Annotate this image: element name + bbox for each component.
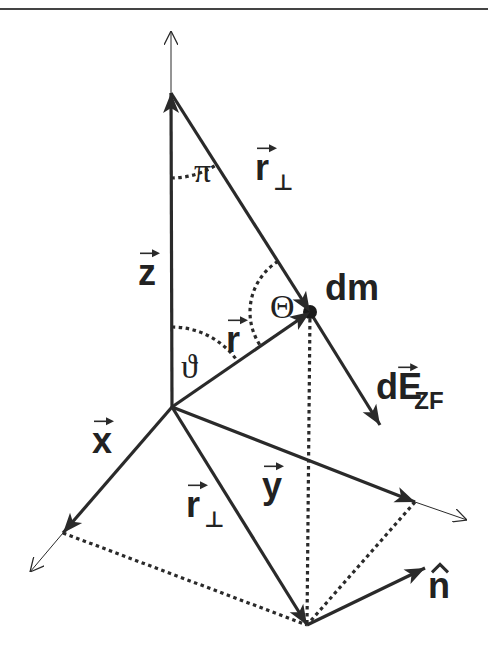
arrowhead-icon bbox=[290, 604, 307, 625]
svg-text:z: z bbox=[138, 252, 156, 293]
subscript: ⊥ bbox=[204, 507, 224, 532]
r-perp-top-label: r⊥ bbox=[255, 144, 293, 195]
pi-angle-label: π bbox=[194, 152, 211, 189]
theta-angle-label: Θ bbox=[270, 288, 295, 325]
dE-ZF-vector bbox=[310, 312, 380, 425]
vectors bbox=[63, 93, 425, 625]
z-vector-label: z bbox=[138, 249, 160, 293]
n-hat-vector bbox=[307, 568, 425, 625]
y-vector-label: y bbox=[262, 462, 284, 506]
dE-ZF-label: dEZF bbox=[376, 363, 444, 414]
svg-text:r: r bbox=[186, 484, 200, 525]
svg-text:y: y bbox=[262, 465, 282, 506]
subscript: ⊥ bbox=[273, 170, 293, 195]
y-axis-line bbox=[415, 502, 467, 520]
r-perp-top-vector bbox=[171, 93, 310, 312]
subscript: ZF bbox=[414, 387, 443, 414]
r-perp-bottom-label: r⊥ bbox=[186, 481, 224, 532]
svg-text:r: r bbox=[226, 319, 240, 360]
svg-text:r: r bbox=[255, 147, 269, 188]
labels: zπr⊥ΘdmrϑdEZFxyr⊥n bbox=[92, 144, 450, 606]
x-axis-line bbox=[30, 533, 63, 572]
diagram-stage: zπr⊥ΘdmrϑdEZFxyr⊥n bbox=[0, 0, 488, 648]
x-vector bbox=[63, 407, 172, 533]
svg-text:Θ: Θ bbox=[270, 288, 295, 325]
x-to-foot-dotted bbox=[63, 533, 307, 625]
vector-diagram: zπr⊥ΘdmrϑdEZFxyr⊥n bbox=[0, 0, 488, 648]
arrowhead-icon bbox=[293, 291, 310, 312]
dm-to-foot-dotted bbox=[307, 312, 310, 625]
dm-label: dm bbox=[325, 267, 379, 308]
svg-text:π: π bbox=[194, 152, 211, 189]
svg-text:ϑ: ϑ bbox=[181, 348, 198, 385]
x-vector-label: x bbox=[92, 417, 114, 461]
svg-text:dm: dm bbox=[325, 267, 379, 308]
y-to-foot-dotted bbox=[307, 502, 415, 625]
r-vector-label: r bbox=[226, 316, 248, 360]
vartheta-angle-label: ϑ bbox=[181, 348, 198, 385]
n-hat-label: n bbox=[428, 564, 450, 606]
svg-text:x: x bbox=[92, 420, 112, 461]
z-vector bbox=[171, 93, 172, 407]
